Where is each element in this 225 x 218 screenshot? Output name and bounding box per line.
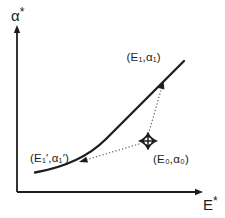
x-axis-symbol: E <box>203 196 213 213</box>
y-axis-symbol: α <box>11 7 20 24</box>
alpha-vs-e-diagram: α* E* (E₁,α₁) (E₁′,α₁′) (E₀,α₀) <box>0 0 225 218</box>
y-axis-superscript: * <box>20 5 25 19</box>
diagram-canvas: α* E* (E₁,α₁) (E₁′,α₁′) (E₀,α₀) <box>0 0 225 218</box>
y-axis-arrow-icon <box>14 25 20 33</box>
point-label-e1: (E₁,α₁) <box>127 51 161 63</box>
x-axis-arrow-icon <box>195 189 203 195</box>
x-axis-label: E* <box>203 194 218 213</box>
dotted-connector-to-e1 <box>149 85 163 134</box>
point-label-e1-prime: (E₁′,α₁′) <box>30 152 69 164</box>
point-label-e0: (E₀,α₀) <box>153 153 189 165</box>
crosshair-diamond-marker <box>138 132 158 151</box>
y-axis-label: α* <box>11 5 25 24</box>
x-axis-superscript: * <box>213 194 218 208</box>
dotted-connector-to-e1-prime <box>84 144 139 161</box>
